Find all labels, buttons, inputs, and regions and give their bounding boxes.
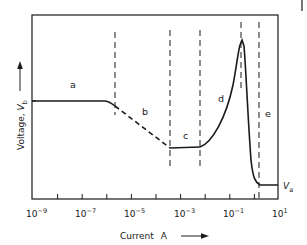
curve-region-a	[32, 101, 115, 106]
y-axis-arrow-icon	[17, 61, 23, 91]
breakdown-voltage-chart: 10−9 10−7 10−5 10−3 10−1 101 CurrentA Vo…	[0, 0, 307, 245]
x-axis-title: CurrentA	[120, 231, 168, 241]
svg-text:10−3: 10−3	[174, 207, 195, 219]
region-label-b: b	[142, 106, 148, 117]
x-axis-arrow-icon	[181, 233, 209, 239]
curve-region-c	[170, 147, 200, 148]
svg-text:10−7: 10−7	[75, 207, 96, 219]
svg-text:Voltage, Vb: Voltage, Vb	[16, 100, 29, 150]
svg-text:10−9: 10−9	[26, 207, 47, 219]
svg-text:10−1: 10−1	[223, 207, 244, 219]
x-axis-ticks	[58, 194, 255, 199]
svg-text:10−5: 10−5	[124, 207, 145, 219]
y-axis-title: Voltage, Vb	[16, 100, 29, 150]
x-tick-labels: 10−9 10−7 10−5 10−3 10−1 101	[26, 207, 288, 219]
region-boundaries	[115, 22, 259, 198]
characteristic-curve	[32, 40, 278, 185]
svg-text:Va: Va	[283, 181, 293, 194]
svg-text:101: 101	[272, 207, 288, 219]
svg-text:CurrentA: CurrentA	[120, 231, 168, 241]
arc-voltage-label: Va	[283, 181, 293, 194]
region-label-d: d	[218, 93, 224, 104]
region-label-e: e	[265, 108, 271, 119]
region-label-c: c	[183, 130, 188, 141]
region-label-a: a	[70, 79, 76, 90]
